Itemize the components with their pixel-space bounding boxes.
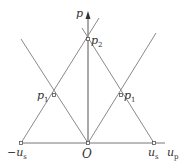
horizontal-axis-label: up (167, 147, 179, 161)
p2-label: p2 (91, 35, 103, 49)
point-pos-us (153, 142, 156, 145)
pos-us-label: us (148, 147, 159, 161)
point-p1-right (120, 94, 123, 97)
point-p1-left (53, 94, 56, 97)
point-neg-us (20, 142, 23, 145)
axis-arrow-icon (86, 11, 91, 19)
line-right-through-origin (88, 33, 156, 143)
vertical-axis-label: p (76, 8, 83, 19)
point-origin (87, 142, 90, 145)
neg-us-label: −us (7, 147, 27, 161)
point-p2 (87, 38, 90, 41)
diagram-canvas (0, 0, 191, 167)
diagram: p p2 p1 p1 −us O us up (0, 0, 191, 167)
p1-left-label: p1 (37, 90, 49, 104)
origin-label: O (82, 148, 92, 160)
p1-right-label: p1 (124, 90, 136, 104)
